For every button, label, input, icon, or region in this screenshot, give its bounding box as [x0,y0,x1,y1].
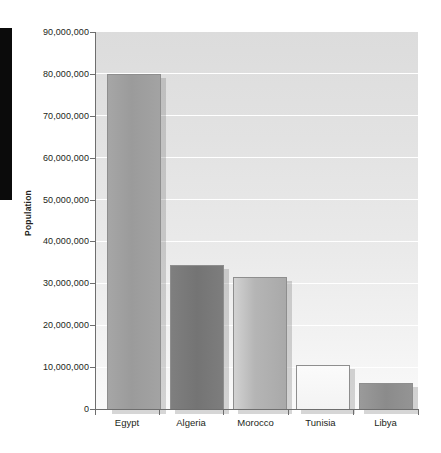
y-tick-label-10m: 10,000,000 [11,362,89,372]
x-axis-line [95,409,419,410]
y-tick-label-30m: 30,000,000 [11,278,89,288]
y-tick-70m [90,116,95,117]
y-axis-title: Population [23,173,33,253]
x-tick-3 [288,410,289,415]
bar-morocco[interactable] [233,277,287,410]
x-tick-label-egypt: Egypt [95,417,159,428]
x-tick-1 [159,410,160,415]
y-tick-label-group: 90,000,000 80,000,000 70,000,000 60,000,… [6,0,89,453]
screenshot-root: 90,000,000 80,000,000 70,000,000 60,000,… [0,0,441,453]
bar-egypt[interactable] [107,74,161,410]
x-tick-2 [223,410,224,415]
y-tick-label-60m: 60,000,000 [11,153,89,163]
y-tick-40m [90,241,95,242]
population-bar-chart: 90,000,000 80,000,000 70,000,000 60,000,… [0,0,441,453]
x-tick-5 [418,410,419,415]
plot-area [95,32,418,409]
y-axis-line [95,32,96,410]
x-tick-label-libya: Libya [353,417,418,428]
x-tick-label-algeria: Algeria [159,417,223,428]
y-tick-80m [90,74,95,75]
y-tick-60m [90,158,95,159]
y-tick-30m [90,283,95,284]
bar-tunisia[interactable] [296,365,350,410]
y-tick-label-20m: 20,000,000 [11,320,89,330]
x-tick-label-morocco: Morocco [223,417,288,428]
y-tick-label-70m: 70,000,000 [11,111,89,121]
x-tick-4 [353,410,354,415]
y-tick-label-0: 0 [11,404,89,414]
y-tick-label-80m: 80,000,000 [11,69,89,79]
bar-algeria[interactable] [170,265,224,410]
y-tick-90m [90,32,95,33]
bar-libya[interactable] [359,383,413,410]
y-tick-50m [90,200,95,201]
y-tick-label-90m: 90,000,000 [11,27,89,37]
y-tick-10m [90,367,95,368]
y-tick-20m [90,325,95,326]
x-tick-0 [95,410,96,415]
x-tick-label-tunisia: Tunisia [288,417,353,428]
